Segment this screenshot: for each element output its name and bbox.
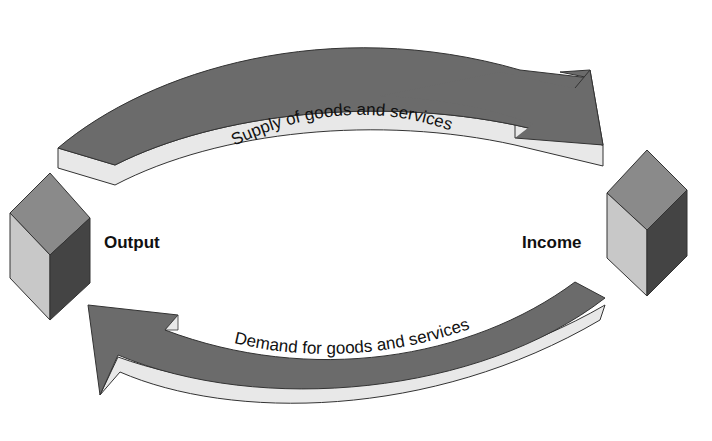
income-label: Income: [522, 233, 582, 252]
circular-flow-diagram: Supply of goods and services Demand for …: [0, 0, 712, 441]
output-label: Output: [104, 233, 160, 252]
output-cube-icon: [10, 173, 90, 320]
income-cube-icon: [607, 150, 687, 296]
